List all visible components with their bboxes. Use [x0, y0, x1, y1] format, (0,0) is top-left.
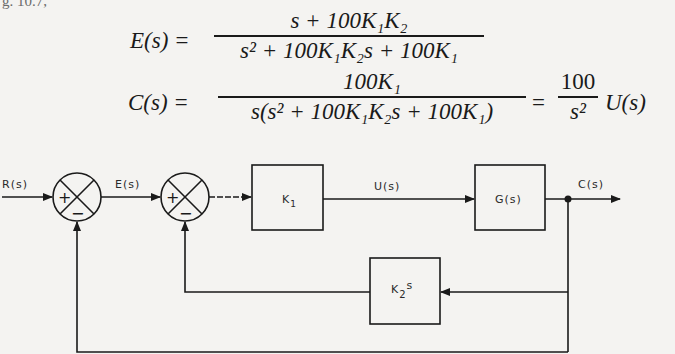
block-plant-label: G(s)	[495, 193, 522, 206]
label-control-signal: U(s)	[374, 180, 400, 193]
label-input-signal: R(s)	[2, 178, 28, 191]
sum1-plus-sign: +	[58, 188, 71, 207]
label-error-signal: E(s)	[115, 178, 140, 191]
label-output-signal: C(s)	[578, 178, 604, 191]
block-k2s-label: K2s	[391, 279, 413, 300]
sum2-minus-sign: −	[179, 204, 192, 223]
block-k1-label: K1	[282, 193, 297, 209]
feedback-line-inner-out	[185, 222, 370, 292]
sum2-plus-sign: +	[166, 188, 179, 207]
feedback-line-outer	[77, 222, 568, 352]
block-diagram: + − + − R(s) E(s) U(s) C(s) K1 G(s) K2s	[0, 0, 675, 354]
takeoff-point	[565, 196, 572, 203]
sum1-minus-sign: −	[71, 204, 84, 223]
